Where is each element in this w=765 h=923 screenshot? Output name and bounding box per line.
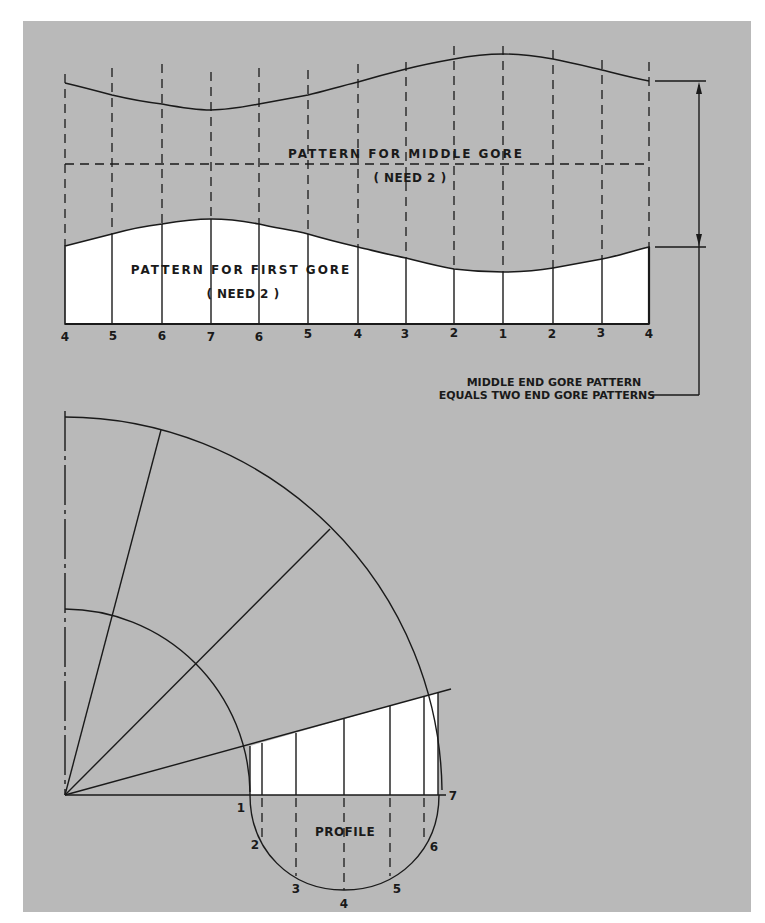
- svg-text:6: 6: [158, 329, 166, 343]
- svg-text:4: 4: [354, 327, 362, 341]
- first-gore-title: PATTERN FOR FIRST GORE: [131, 263, 352, 277]
- svg-text:3: 3: [597, 326, 605, 340]
- svg-text:1: 1: [237, 801, 245, 815]
- svg-text:5: 5: [109, 329, 117, 343]
- dimension-note-line1: MIDDLE END GORE PATTERN: [467, 376, 642, 389]
- svg-text:6: 6: [255, 330, 263, 344]
- svg-text:5: 5: [393, 882, 401, 896]
- first-gore-quantity: ( NEED 2 ): [206, 287, 279, 301]
- svg-text:5: 5: [304, 327, 312, 341]
- svg-text:4: 4: [340, 897, 348, 911]
- profile-label: PROFILE: [315, 825, 375, 839]
- middle-gore-quantity: ( NEED 2 ): [373, 171, 446, 185]
- svg-text:2: 2: [548, 327, 556, 341]
- svg-text:4: 4: [645, 327, 653, 341]
- dimension-note-line2: EQUALS TWO END GORE PATTERNS: [439, 389, 656, 402]
- svg-text:2: 2: [251, 838, 259, 852]
- svg-text:6: 6: [430, 840, 438, 854]
- gore-pattern-diagram: PATTERN FOR MIDDLE GORE ( NEED 2 ) PATTE…: [0, 0, 765, 923]
- svg-text:7: 7: [449, 789, 457, 803]
- middle-gore-title: PATTERN FOR MIDDLE GORE: [288, 147, 524, 161]
- svg-text:3: 3: [292, 882, 300, 896]
- svg-text:2: 2: [450, 326, 458, 340]
- svg-text:4: 4: [61, 330, 69, 344]
- svg-text:3: 3: [401, 327, 409, 341]
- svg-text:7: 7: [207, 330, 215, 344]
- svg-text:1: 1: [499, 327, 507, 341]
